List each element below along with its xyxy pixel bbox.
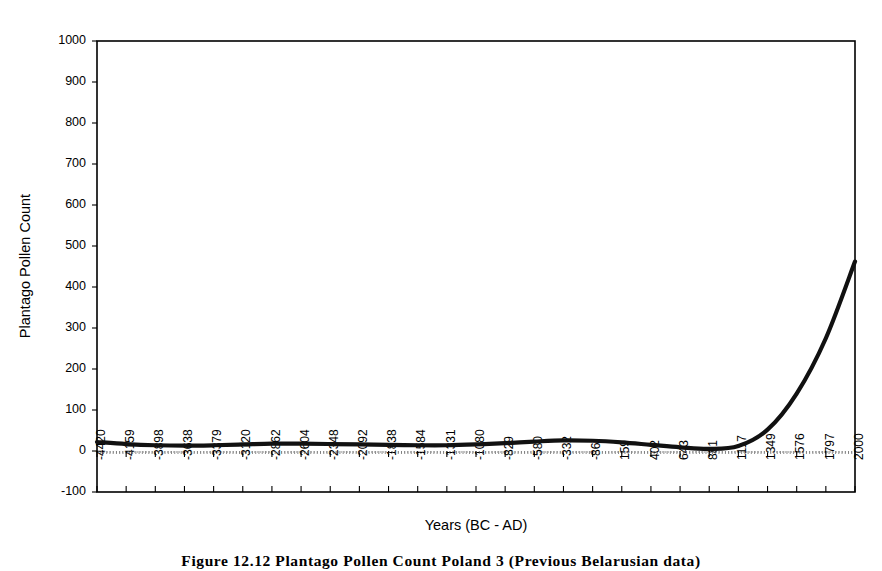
y-tick-label: 800	[65, 115, 86, 129]
x-tick-label: -829	[502, 436, 516, 460]
y-tick-label: 100	[65, 402, 86, 416]
y-axis-title: Plantago Pollen Count	[17, 194, 33, 338]
figure-caption: Figure 12.12 Plantago Pollen Count Polan…	[0, 552, 882, 571]
y-tick-label: 400	[65, 279, 86, 293]
y-tick-label: 300	[65, 320, 86, 334]
y-tick-label: 200	[65, 361, 86, 375]
y-tick-label: 600	[65, 197, 86, 211]
x-tick-label: 1797	[823, 433, 837, 460]
y-axis-tick-labels: 10009008007006005004003002001000-100	[58, 33, 86, 498]
y-tick-label: 900	[65, 74, 86, 88]
x-tick-label: 1576	[793, 433, 807, 460]
x-tick-label: 2000	[852, 433, 866, 460]
x-axis-title: Years (BC - AD)	[425, 517, 528, 533]
y-tick-label: 700	[65, 156, 86, 170]
pollen-count-line-chart: 10009008007006005004003002001000-100 -44…	[0, 0, 882, 545]
figure-container: 10009008007006005004003002001000-100 -44…	[0, 0, 882, 571]
y-tick-label: -100	[61, 484, 86, 498]
y-tick-label: 0	[79, 443, 86, 457]
pollen-count-series-line	[97, 262, 855, 449]
y-tick-label: 500	[65, 238, 86, 252]
x-tick-label: -86	[589, 442, 603, 460]
y-tick-label: 1000	[58, 33, 86, 47]
x-tick-label: 1349	[764, 433, 778, 460]
plot-frame	[97, 41, 855, 492]
